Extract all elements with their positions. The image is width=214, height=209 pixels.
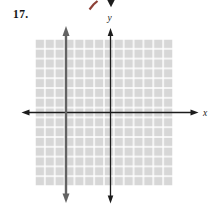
cropped-black-arrowhead-icon [107,0,114,7]
y-axis-top-arrowhead-icon [108,28,114,36]
y-axis-bottom-arrowhead-icon [108,196,114,204]
x-axis-left-arrowhead-icon [22,110,30,116]
x-axis-right-arrowhead-icon [191,110,199,116]
cropped-red-arrow-fragment [90,1,98,10]
x-axis-label: x [202,108,208,118]
plotted-line-top-arrowhead-icon [63,26,70,36]
graph-figure: x y [0,0,214,209]
plotted-line-bottom-arrowhead-icon [63,194,70,204]
y-axis-label: y [106,13,112,23]
